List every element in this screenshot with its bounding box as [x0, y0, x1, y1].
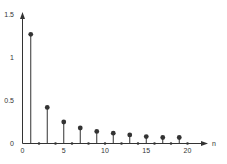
stem-marker: [160, 135, 165, 140]
x-tick-label: 15: [142, 147, 150, 154]
stem-marker: [94, 129, 99, 134]
stem-plot: n0510152000.511.5: [0, 0, 227, 164]
x-tick-label: 5: [62, 147, 66, 154]
x-tick-label: 10: [101, 147, 109, 154]
x-axis-label: n: [212, 140, 216, 147]
stem-marker: [61, 120, 66, 125]
stem-marker: [127, 133, 132, 138]
y-tick-label: 1: [10, 54, 14, 61]
y-axis-arrow-icon: [20, 12, 25, 19]
x-tick-label: 20: [184, 147, 192, 154]
stem-marker-zero: [170, 142, 173, 145]
y-tick-label: 1.5: [4, 11, 14, 18]
stem-marker: [78, 126, 83, 131]
x-axis-arrow-icon: [201, 141, 208, 146]
stem-marker: [177, 135, 182, 140]
stem-marker-zero: [153, 142, 156, 145]
x-tick-label: 0: [21, 147, 25, 154]
stem-marker: [111, 131, 116, 136]
stem-marker-zero: [71, 142, 74, 145]
y-tick-label: 0.5: [4, 97, 14, 104]
stem-marker-zero: [186, 142, 189, 145]
stem-marker-zero: [137, 142, 140, 145]
stem-marker: [28, 32, 33, 37]
stem-marker: [144, 134, 149, 139]
stem-marker-zero: [54, 142, 57, 145]
stem-marker-zero: [38, 142, 41, 145]
stem-marker-zero: [87, 142, 90, 145]
stem-marker: [45, 105, 50, 110]
stem-marker-zero: [120, 142, 123, 145]
y-tick-label: 0: [10, 140, 14, 147]
stem-marker-zero: [104, 142, 107, 145]
